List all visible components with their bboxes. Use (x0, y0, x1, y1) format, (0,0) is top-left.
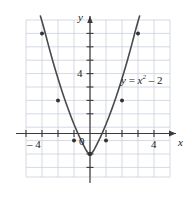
curve-point-marker (40, 31, 44, 35)
y-axis (87, 16, 93, 183)
equation-exponent: 2 (143, 73, 147, 81)
x-axis (16, 131, 176, 137)
curve-point-marker (56, 98, 60, 102)
x-tick-label-minus-4: – 4 (27, 139, 41, 150)
curve-point-marker (136, 31, 140, 35)
y-tick-label-4: 4 (77, 68, 83, 79)
x-tick-label-4: 4 (151, 139, 157, 150)
curve-point-marker (72, 139, 76, 143)
curve-point-marker (104, 139, 108, 143)
equation-constant: 2 (157, 74, 163, 86)
graph-figure: – 4 4 0 4 x y y = x2 – 2 (0, 0, 192, 197)
y-axis-label: y (78, 12, 83, 23)
origin-label: 0 (79, 136, 85, 147)
curve-point-marker (120, 98, 124, 102)
equation-annotation: y = x2 – 2 (121, 74, 163, 86)
x-axis-label: x (178, 137, 183, 148)
equation-lhs: y (121, 74, 126, 86)
equation-equals: = (129, 74, 135, 86)
curve-point-marker (88, 152, 92, 156)
parabola-plot (0, 0, 192, 197)
equation-minus: – (149, 74, 155, 86)
